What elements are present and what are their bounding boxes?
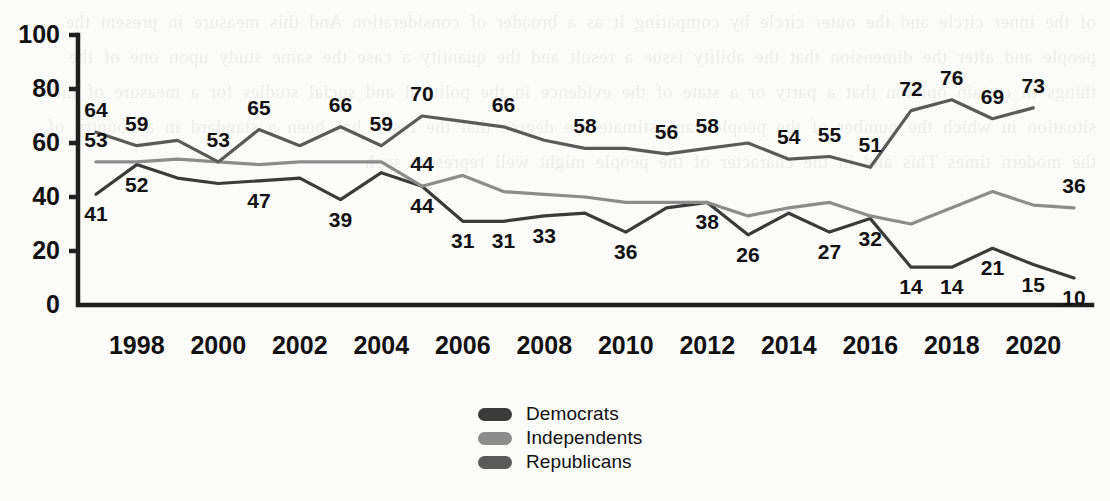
data-label: 36 bbox=[614, 240, 637, 263]
legend-item-republicans[interactable]: Republicans bbox=[478, 450, 642, 474]
data-label: 56 bbox=[655, 120, 678, 143]
data-label: 53 bbox=[84, 128, 107, 151]
data-label: 14 bbox=[899, 275, 923, 298]
data-label: 66 bbox=[329, 93, 352, 116]
legend-item-democrats[interactable]: Democrats bbox=[478, 402, 642, 426]
data-label: 53 bbox=[207, 128, 230, 151]
data-label: 39 bbox=[329, 208, 352, 231]
data-label: 38 bbox=[696, 210, 720, 233]
svg-text:100: 100 bbox=[18, 20, 60, 48]
svg-text:60: 60 bbox=[32, 128, 60, 156]
data-label: 41 bbox=[84, 202, 108, 225]
data-label: 51 bbox=[859, 133, 883, 156]
svg-text:40: 40 bbox=[32, 182, 60, 210]
svg-text:2018: 2018 bbox=[924, 331, 980, 359]
svg-text:1998: 1998 bbox=[109, 331, 165, 359]
data-label: 44 bbox=[410, 152, 434, 175]
data-label: 15 bbox=[1022, 273, 1046, 296]
data-label: 27 bbox=[818, 240, 841, 263]
data-label: 72 bbox=[899, 77, 922, 100]
legend-swatch-independents bbox=[478, 432, 512, 445]
chart-axes: 1008060402001998200020022004200620082010… bbox=[18, 20, 1092, 359]
svg-text:20: 20 bbox=[32, 236, 60, 264]
svg-text:2012: 2012 bbox=[679, 331, 735, 359]
data-label: 76 bbox=[940, 66, 963, 89]
svg-text:2014: 2014 bbox=[761, 331, 817, 359]
data-label: 58 bbox=[696, 114, 720, 137]
data-label: 73 bbox=[1022, 74, 1045, 97]
legend-label-republicans: Republicans bbox=[526, 451, 632, 473]
svg-text:2008: 2008 bbox=[516, 331, 572, 359]
data-label: 14 bbox=[940, 275, 964, 298]
data-label: 69 bbox=[981, 85, 1004, 108]
legend-swatch-republicans bbox=[478, 456, 512, 469]
svg-text:80: 80 bbox=[32, 74, 60, 102]
data-label: 10 bbox=[1062, 286, 1085, 309]
svg-text:2002: 2002 bbox=[272, 331, 328, 359]
data-label: 33 bbox=[533, 224, 556, 247]
data-label: 59 bbox=[125, 112, 148, 135]
legend-label-democrats: Democrats bbox=[526, 403, 619, 425]
series-line-democrats bbox=[96, 165, 1074, 278]
svg-text:2000: 2000 bbox=[190, 331, 246, 359]
data-label: 36 bbox=[1062, 174, 1085, 197]
chart-legend: Democrats Independents Republicans bbox=[478, 402, 642, 474]
data-label: 54 bbox=[777, 125, 801, 148]
data-label: 66 bbox=[492, 93, 515, 116]
svg-text:2006: 2006 bbox=[435, 331, 491, 359]
chart-figure: 1008060402001998200020022004200620082010… bbox=[0, 0, 1110, 501]
data-label: 21 bbox=[981, 256, 1005, 279]
chart-data-labels: 4152473944313133363826273214142115105344… bbox=[84, 66, 1085, 309]
data-label: 65 bbox=[247, 96, 271, 119]
data-label: 70 bbox=[410, 82, 433, 105]
legend-label-independents: Independents bbox=[526, 427, 642, 449]
data-label: 32 bbox=[859, 227, 882, 250]
svg-text:2016: 2016 bbox=[842, 331, 898, 359]
svg-text:2010: 2010 bbox=[598, 331, 654, 359]
data-label: 58 bbox=[573, 114, 597, 137]
data-label: 52 bbox=[125, 173, 148, 196]
data-label: 59 bbox=[370, 112, 393, 135]
svg-text:0: 0 bbox=[46, 290, 60, 318]
series-line-republicans bbox=[96, 100, 1033, 168]
legend-item-independents[interactable]: Independents bbox=[478, 426, 642, 450]
data-label: 55 bbox=[818, 123, 842, 146]
legend-swatch-democrats bbox=[478, 408, 512, 421]
data-label: 26 bbox=[736, 243, 759, 266]
data-label: 31 bbox=[492, 229, 516, 252]
data-label: 31 bbox=[451, 229, 475, 252]
data-label: 47 bbox=[247, 189, 270, 212]
data-label: 44 bbox=[410, 194, 434, 217]
svg-text:2004: 2004 bbox=[353, 331, 409, 359]
data-label: 64 bbox=[84, 98, 108, 121]
svg-text:2020: 2020 bbox=[1005, 331, 1061, 359]
